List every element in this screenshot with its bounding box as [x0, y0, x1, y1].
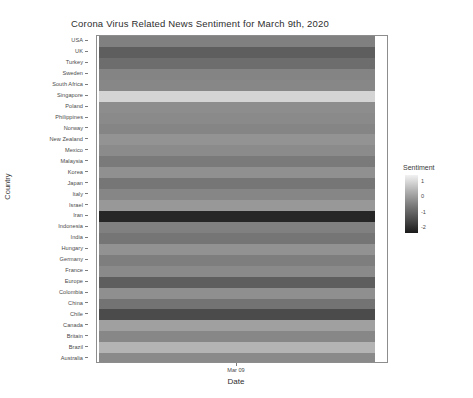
y-axis-tick: Iran	[0, 210, 90, 221]
y-axis-tick: Korea	[0, 166, 90, 177]
y-axis-tick: UK	[0, 46, 90, 57]
y-axis-tick: Norway	[0, 123, 90, 134]
heatmap-row	[99, 47, 375, 58]
colorbar-tick: 1	[421, 178, 424, 184]
y-axis-tick: Malaysia	[0, 155, 90, 166]
heatmap-row	[99, 342, 375, 353]
heatmap-row	[99, 331, 375, 342]
heatmap-row	[99, 233, 375, 244]
y-axis-tick: China	[0, 298, 90, 309]
y-axis-tick: Philippines	[0, 112, 90, 123]
heatmap-row	[99, 102, 375, 113]
y-axis-tick: Australia	[0, 352, 90, 363]
heatmap-row	[99, 178, 375, 189]
heatmap-row	[99, 353, 375, 363]
heatmap-row	[99, 255, 375, 266]
y-axis-tick: New Zealand	[0, 133, 90, 144]
heatmap-row	[99, 222, 375, 233]
y-axis-tick: South Africa	[0, 79, 90, 90]
y-axis-tick: Chile	[0, 308, 90, 319]
heatmap-cells	[99, 36, 375, 363]
x-axis-title: Date	[206, 377, 266, 386]
heatmap-row	[99, 277, 375, 288]
heatmap-row	[99, 145, 375, 156]
y-axis-tick: Mexico	[0, 144, 90, 155]
heatmap-row	[99, 36, 375, 47]
y-axis-tick: Hungary	[0, 243, 90, 254]
legend-title: Sentiment	[403, 164, 469, 171]
colorbar-tick: -2	[421, 224, 426, 230]
y-axis-tick: Britain	[0, 330, 90, 341]
heatmap-row	[99, 288, 375, 299]
heatmap-row	[99, 309, 375, 320]
y-axis-tick: Singapore	[0, 90, 90, 101]
y-axis-tick: Japan	[0, 177, 90, 188]
y-axis-tick: Indonesia	[0, 221, 90, 232]
heatmap-row	[99, 244, 375, 255]
y-axis-tick: Poland	[0, 101, 90, 112]
y-axis-tick: Turkey	[0, 57, 90, 68]
heatmap-row	[99, 91, 375, 102]
y-axis-tick: Sweden	[0, 68, 90, 79]
heatmap-row	[99, 299, 375, 310]
heatmap-row	[99, 113, 375, 124]
y-axis-tick: USA	[0, 35, 90, 46]
heatmap-row	[99, 156, 375, 167]
colorbar-legend: Sentiment 10-1-2	[403, 164, 469, 237]
heatmap-row	[99, 211, 375, 222]
heatmap-row	[99, 124, 375, 135]
heatmap-row	[99, 69, 375, 80]
heatmap-figure: Corona Virus Related News Sentiment for …	[0, 0, 473, 398]
y-axis-tick: France	[0, 265, 90, 276]
y-axis-tick-labels: USAUKTurkeySwedenSouth AfricaSingaporePo…	[0, 35, 90, 363]
colorbar-tick: 0	[421, 193, 424, 199]
colorbar-gradient	[405, 175, 418, 233]
colorbar-tick-labels: 10-1-2	[421, 175, 461, 233]
y-axis-tick: Brazil	[0, 341, 90, 352]
y-axis-tick: Germany	[0, 254, 90, 265]
heatmap-row	[99, 266, 375, 277]
chart-title: Corona Virus Related News Sentiment for …	[0, 18, 400, 29]
y-axis-tick: Europe	[0, 276, 90, 287]
heatmap-row	[99, 167, 375, 178]
legend-body: 10-1-2	[403, 175, 469, 237]
heatmap-row	[99, 200, 375, 211]
heatmap-row	[99, 320, 375, 331]
y-axis-tick: Italy	[0, 188, 90, 199]
y-axis-tick: Israel	[0, 199, 90, 210]
heatmap-row	[99, 189, 375, 200]
heatmap-row	[99, 58, 375, 69]
heatmap-row	[99, 134, 375, 145]
y-axis-tick: Canada	[0, 319, 90, 330]
x-axis-tick-label: Mar 09	[206, 367, 266, 373]
heatmap-row	[99, 80, 375, 91]
colorbar-tick: -1	[421, 209, 426, 215]
y-axis-tick: Colombia	[0, 287, 90, 298]
x-axis-tick-mark	[236, 363, 237, 366]
y-axis-tick: India	[0, 232, 90, 243]
plot-area	[96, 35, 388, 363]
